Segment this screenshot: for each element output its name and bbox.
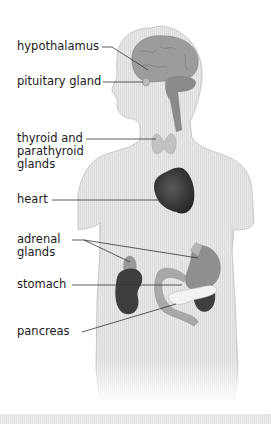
pituitary-icon xyxy=(143,78,150,86)
label-heart: heart xyxy=(17,193,48,206)
label-thyroid-parathyroid: thyroid and parathyroid glands xyxy=(17,132,84,171)
label-hypothalamus: hypothalamus xyxy=(17,40,99,53)
endocrine-diagram xyxy=(0,0,271,424)
label-stomach: stomach xyxy=(17,278,66,291)
label-pancreas: pancreas xyxy=(17,325,70,338)
label-pituitary-gland: pituitary gland xyxy=(17,75,101,88)
label-adrenal-glands: adrenal glands xyxy=(17,233,60,259)
fade-overlay xyxy=(90,360,260,405)
bottom-divider-bar xyxy=(0,414,271,424)
